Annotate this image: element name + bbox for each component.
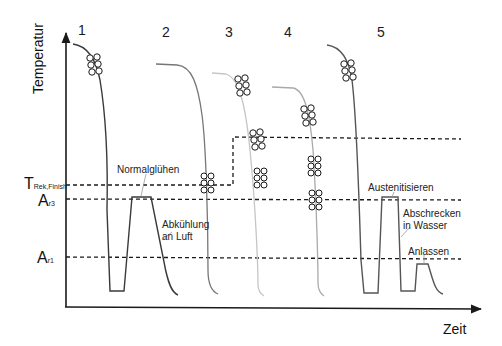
grain-cluster-4b <box>308 156 321 176</box>
a-r1-main: A <box>37 249 48 266</box>
grain-cluster-4a <box>301 105 316 126</box>
x-axis-title: Zeit <box>443 322 466 336</box>
annotation-abschrecken-line1: Abschrecken <box>403 208 461 220</box>
a-r1-sub: r1 <box>48 257 54 264</box>
a-r3-sub: r3 <box>49 200 55 207</box>
annotation-austenitisieren: Austenitisieren <box>368 182 434 194</box>
grain-cluster-3c <box>254 168 267 188</box>
t-rek-finish-label: TRek,Finish <box>24 176 67 192</box>
a-r3-main: A <box>38 192 49 209</box>
grain-cluster-1 <box>87 54 102 75</box>
curve-number-1: 1 <box>78 23 86 37</box>
a-r1-line <box>66 257 461 259</box>
grain-cluster-2 <box>201 173 214 193</box>
x-axis <box>65 307 481 309</box>
curve-2 <box>156 64 218 294</box>
annotation-abkuehlung-line2: an Luft <box>162 231 209 243</box>
t-rek-finish-sub: Rek,Finish <box>34 183 67 190</box>
grain-cluster-3b <box>250 129 265 150</box>
grain-cluster-4c <box>309 190 322 210</box>
annotation-anlassen: Anlassen <box>408 246 449 258</box>
annotation-abschrecken: Abschrecken in Wasser <box>403 208 461 232</box>
heat-treatment-diagram <box>0 0 502 346</box>
a-r3-label: Ar3 <box>38 193 55 209</box>
curve-number-5: 5 <box>377 25 385 39</box>
annotation-normalgluehen: Normalglühen <box>117 164 179 176</box>
curve-number-2: 2 <box>162 25 170 39</box>
curve-number-3: 3 <box>225 25 233 39</box>
grain-cluster-5 <box>341 60 356 81</box>
a-r3-line <box>66 199 461 200</box>
t-rek-finish-main: T <box>24 175 34 192</box>
grain-cluster-3a <box>235 75 250 96</box>
annotation-abkuehlung-line1: Abkühlung <box>162 219 209 231</box>
y-axis-title: Temperatur <box>30 23 46 94</box>
a-r1-label: Ar1 <box>37 250 54 266</box>
curve-number-4: 4 <box>284 25 292 39</box>
annotation-abschrecken-line2: in Wasser <box>403 220 461 232</box>
annotation-abkuehlung: Abkühlung an Luft <box>162 219 209 243</box>
